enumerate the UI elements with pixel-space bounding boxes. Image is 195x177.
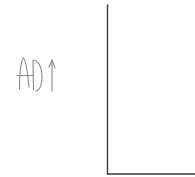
letter-d-stroke — [33, 60, 42, 91]
axes-sketch: AD — [0, 0, 195, 177]
y-axis-label-group — [17, 58, 55, 91]
letter-a-stroke — [20, 58, 30, 89]
up-arrow-icon — [49, 60, 55, 91]
